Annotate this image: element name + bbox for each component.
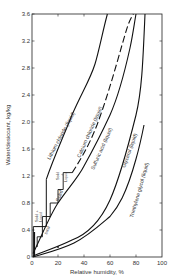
label-triethylene-glycol: Triethylene glycol (liquid) [128,161,150,218]
x-ticks [58,14,136,257]
label-glycerol: Glycerol (liquid) [120,132,138,168]
svg-text:0: 0 [30,260,34,266]
x-axis-title: Relative humidity, % [70,269,125,275]
svg-text:0.4: 0.4 [22,227,31,233]
desiccant-chart: 3.6 3.2 2.8 2.4 2.0 1.6 1.2 0.8 0.4 0 0 … [0,0,172,280]
label-lithium-chloride: Lithium chloride (liquid) [46,110,76,160]
svg-text:1.6: 1.6 [22,146,31,152]
svg-text:1.2: 1.2 [22,173,31,179]
svg-text:40: 40 [81,260,88,266]
svg-text:20: 20 [55,260,62,266]
svg-text:3.6: 3.6 [22,11,31,17]
y-tick-labels: 3.6 3.2 2.8 2.4 2.0 1.6 1.2 0.8 0.4 0 [22,11,31,260]
y-axis-title: Water/desiccant, kg/kg [5,105,11,165]
label-solid-liquid-1b: Liquid [39,212,43,222]
label-solid-liquid-2c: Liquid [64,172,68,182]
svg-text:2.8: 2.8 [22,65,31,71]
svg-text:2.0: 2.0 [22,119,31,125]
svg-text:60: 60 [107,260,114,266]
svg-text:2.4: 2.4 [22,92,31,98]
svg-text:0.8: 0.8 [22,200,31,206]
svg-text:3.2: 3.2 [22,38,31,44]
plot-frame [32,14,162,257]
calcium-chloride-solid-steps [37,173,72,247]
curve-intersection-dot [57,246,59,248]
svg-text:80: 80 [133,260,140,266]
svg-text:100: 100 [157,260,168,266]
x-tick-labels: 0 20 40 60 80 100 [30,260,167,266]
